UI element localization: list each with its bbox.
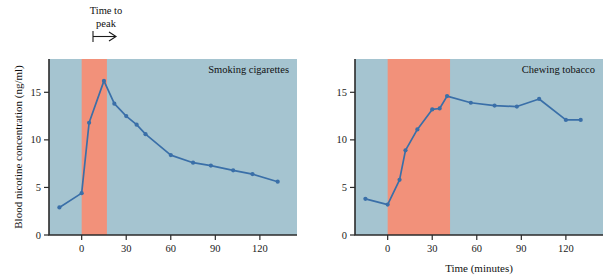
data-point (87, 121, 91, 125)
x-tick-label: 120 (558, 243, 574, 254)
data-point (403, 148, 407, 152)
data-point (415, 127, 419, 131)
x-tick-label: 0 (385, 243, 390, 254)
panel-title-chewing: Chewing tobacco (522, 64, 595, 75)
y-tick-label: 0 (342, 230, 347, 241)
y-tick-label: 10 (31, 134, 42, 145)
x-tick-label: 0 (79, 243, 84, 254)
data-point (169, 153, 173, 157)
data-point (191, 161, 195, 165)
data-point (102, 79, 106, 83)
data-point (430, 107, 434, 111)
y-tick-label: 5 (342, 182, 347, 193)
data-point (124, 114, 128, 118)
data-point (80, 191, 84, 195)
data-point (57, 205, 61, 209)
x-axis-title: Time (minutes) (445, 262, 513, 275)
y-tick-label: 15 (337, 87, 348, 98)
data-point (579, 118, 583, 122)
x-tick-labels-right: 0306090120 (385, 243, 574, 254)
data-point (250, 172, 254, 176)
x-tick-label: 90 (516, 243, 527, 254)
x-tick-labels-left: 0306090120 (79, 243, 268, 254)
data-point (112, 102, 116, 106)
y-axis-title: Blood nicotine concentration (ng/ml) (12, 65, 25, 229)
y-tick-labels-right: 051015 (337, 87, 348, 241)
right-arrow-icon (93, 31, 116, 42)
nicotine-concentration-figure: 051015 0306090120 Smoking cigarettes Blo… (0, 0, 614, 279)
annotation-line-2: peak (96, 18, 117, 29)
data-point (143, 132, 147, 136)
peak-band-right (388, 59, 450, 235)
y-tick-label: 5 (36, 182, 41, 193)
panel-chewing-tobacco: 051015 0306090120 Chewing tobacco Time (… (337, 59, 604, 275)
y-tick-label: 0 (36, 230, 41, 241)
x-tick-label: 120 (252, 243, 268, 254)
y-tick-labels-left: 051015 (31, 87, 42, 241)
data-point (445, 94, 449, 98)
annotation-line-1: Time to (90, 5, 123, 16)
x-tick-label: 60 (472, 243, 483, 254)
data-point (492, 104, 496, 108)
data-point (276, 180, 280, 184)
data-point (438, 106, 442, 110)
data-point (135, 123, 139, 127)
x-tick-label: 30 (121, 243, 132, 254)
data-point (515, 104, 519, 108)
time-to-peak-annotation: Time to peak (90, 5, 123, 42)
x-tick-label: 60 (166, 243, 177, 254)
x-tick-label: 90 (210, 243, 221, 254)
figure-svg: 051015 0306090120 Smoking cigarettes Blo… (0, 0, 614, 279)
data-point (469, 101, 473, 105)
data-point (564, 118, 568, 122)
y-tick-label: 10 (337, 134, 348, 145)
data-point (209, 163, 213, 167)
data-point (537, 97, 541, 101)
data-point (363, 197, 367, 201)
x-tick-label: 30 (427, 243, 438, 254)
panel-smoking-cigarettes: 051015 0306090120 Smoking cigarettes Blo… (12, 59, 297, 254)
data-point (397, 178, 401, 182)
data-point (231, 168, 235, 172)
y-tick-label: 15 (31, 87, 42, 98)
panel-title-smoking: Smoking cigarettes (208, 64, 289, 75)
data-point (386, 202, 390, 206)
